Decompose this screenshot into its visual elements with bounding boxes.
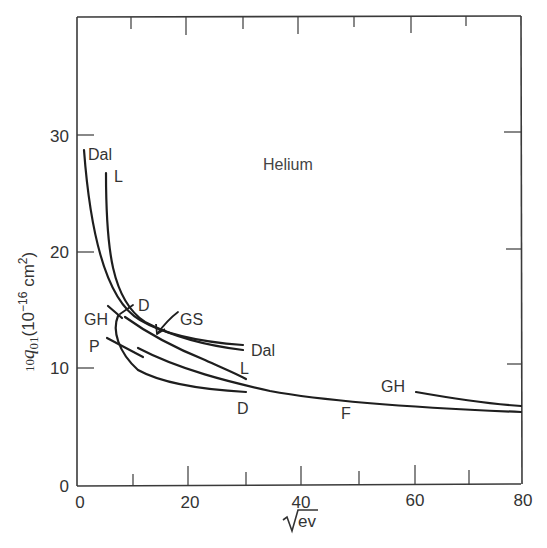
x-tick-20: 20 <box>181 493 200 512</box>
x-tick-labels: 0 20 40 60 80 <box>75 491 532 512</box>
y-tick-0: 0 <box>60 477 69 496</box>
y-tick-10: 10 <box>50 359 69 378</box>
ylabel-units: (10 <box>19 312 38 337</box>
ylabel-q: q <box>17 349 38 359</box>
label-dal-end: Dal <box>251 342 275 359</box>
x-tick-40: 40 <box>292 493 311 512</box>
curve-labels: Dal L D GH GS P Dal L D F GH <box>84 146 405 422</box>
x-axis-bottom <box>77 484 521 486</box>
y-axis-right <box>521 16 522 484</box>
label-d-mid: D <box>138 297 150 314</box>
y-tick-30: 30 <box>50 127 69 146</box>
chart-annotation-helium: Helium <box>263 156 313 173</box>
label-dal-top: Dal <box>88 146 112 163</box>
cross-section-chart: 0 20 40 60 80 0 10 20 30 ev 10q01(10−16 … <box>0 0 547 548</box>
ylabel-sub: 01 <box>26 337 41 350</box>
label-d-end: D <box>237 400 249 417</box>
label-gh-high: GH <box>381 378 405 395</box>
x-ticks-top <box>131 16 466 35</box>
label-gh-low: GH <box>84 311 108 328</box>
x-tick-0: 0 <box>75 493 84 512</box>
label-l-end: L <box>240 360 249 377</box>
ylabel-exp: −16 <box>16 291 30 312</box>
curve-l-upper <box>106 173 243 350</box>
curves <box>84 150 521 412</box>
x-tick-60: 60 <box>406 491 425 510</box>
x-axis-label-text: ev <box>298 512 316 531</box>
x-tick-80: 80 <box>514 491 533 510</box>
x-axis-top <box>77 16 521 17</box>
y-axis-label: 10q01(10−16 cm2) <box>16 252 41 372</box>
plot-frame <box>77 16 522 486</box>
ylabel-prefix: 10 <box>22 359 37 372</box>
x-axis-label: ev <box>283 510 318 531</box>
label-p: P <box>89 338 100 355</box>
y-ticks-right <box>504 132 522 364</box>
label-l-top: L <box>114 168 123 185</box>
y-tick-20: 20 <box>50 243 69 262</box>
pointer-gs <box>157 312 178 334</box>
svg-text:10q01(10−16 cm2): 10q01(10−16 cm2) <box>16 252 41 372</box>
ylabel-cm: cm <box>19 264 38 291</box>
label-f: F <box>341 405 351 422</box>
label-gs: GS <box>180 311 203 328</box>
ylabel-close: ) <box>19 252 38 258</box>
curve-f <box>138 348 521 412</box>
x-ticks-bottom <box>133 465 469 486</box>
y-tick-labels: 0 10 20 30 <box>50 127 69 496</box>
curve-gh-low <box>108 306 122 318</box>
curve-gh-high <box>416 392 521 406</box>
